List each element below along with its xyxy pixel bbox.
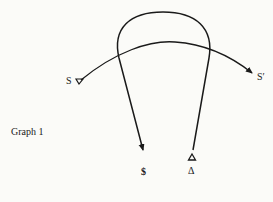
label-barred-s: $ — [141, 166, 146, 177]
start-triangle-icon — [76, 79, 83, 84]
graph-caption: Graph 1 — [11, 126, 44, 137]
signifier-arc — [81, 42, 252, 80]
label-s-prime: S′ — [257, 71, 265, 82]
label-s: S — [66, 75, 72, 86]
label-delta: Δ — [188, 165, 195, 176]
retroversion-curve — [118, 12, 210, 150]
graph-diagram: S S′ $ Δ Graph 1 — [0, 0, 273, 202]
triangle-marker-icon — [189, 154, 196, 160]
